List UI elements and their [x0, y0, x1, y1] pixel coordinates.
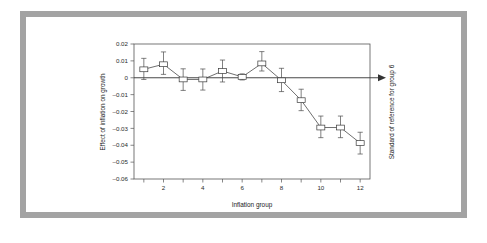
y-axis-title: Effect of inflation on growth: [99, 73, 107, 150]
y-tick-label: 0.01: [116, 57, 129, 64]
x-tick-label: 8: [280, 184, 284, 191]
zero-reference-line: [134, 74, 386, 81]
x-axis-title: Inflation group: [232, 201, 273, 209]
series-line: [144, 63, 360, 143]
data-point-marker: [258, 61, 266, 66]
x-axis-ticks: 24681012: [144, 179, 364, 191]
data-point-marker: [140, 67, 148, 72]
y-tick-label: –0.02: [113, 108, 129, 115]
x-tick-label: 2: [162, 184, 166, 191]
data-point-marker: [179, 77, 187, 82]
data-point-marker: [356, 141, 364, 146]
data-point-marker: [278, 78, 286, 83]
plot-frame: [134, 44, 370, 179]
data-point-marker: [219, 69, 227, 74]
data-point-marker: [238, 75, 246, 80]
y-tick-label: –0.06: [113, 175, 129, 182]
y-tick-label: –0.03: [113, 125, 129, 132]
x-tick-label: 12: [357, 184, 364, 191]
x-tick-label: 10: [317, 184, 324, 191]
data-point-marker: [337, 125, 345, 130]
y-tick-label: –0.05: [113, 158, 129, 165]
data-point-marker: [199, 77, 207, 82]
y-tick-label: –0.04: [113, 141, 129, 148]
data-point-marker: [297, 98, 305, 103]
data-point-marker: [160, 62, 168, 67]
inflation-growth-chart: 0.020.010–0.01–0.02–0.03–0.04–0.05–0.06 …: [0, 0, 487, 243]
reference-annotation: Standard of reference for group 6: [388, 64, 396, 159]
x-tick-label: 4: [201, 184, 205, 191]
y-tick-label: –0.01: [113, 91, 129, 98]
data-point-markers: [140, 61, 364, 145]
data-point-marker: [317, 125, 325, 130]
y-tick-label: 0: [125, 74, 129, 81]
y-tick-label: 0.02: [116, 40, 129, 47]
error-bars: [141, 52, 363, 154]
y-axis-ticks: 0.020.010–0.01–0.02–0.03–0.04–0.05–0.06: [113, 40, 134, 182]
x-tick-label: 6: [240, 184, 244, 191]
